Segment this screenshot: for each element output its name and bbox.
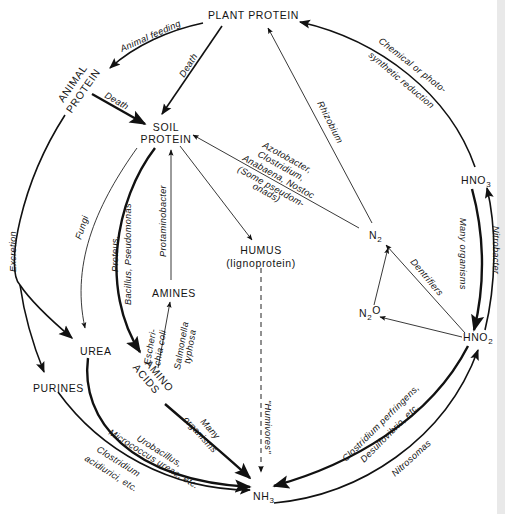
label-clostridium-perfringens-1: Clostridium perfringens, [340, 383, 421, 464]
label-proteus-2: Bacillus, Pseudomonas [123, 203, 133, 305]
arrow-hno3-hno2 [472, 189, 482, 330]
node-soil-protein-line2: PROTEIN [141, 133, 192, 145]
node-amines: AMINES [152, 287, 196, 299]
node-humus-subtitle: (lignoprotein) [226, 257, 296, 269]
node-n2o: N2O [359, 304, 381, 322]
label-protaminobacter: Protaminobacter [158, 184, 168, 257]
label-nitrosomas: Nitrosomas [390, 438, 434, 479]
label-fungi: Fungi [73, 214, 90, 241]
node-humus: HUMUS [240, 244, 282, 256]
node-hno2: HNO2 [463, 331, 493, 346]
node-soil-protein-line1: SOIL [153, 121, 179, 133]
node-n2: N2 [369, 229, 382, 244]
label-excretion: Excretion [8, 231, 18, 272]
label-rhizobium: Rhizobium [315, 99, 345, 145]
nitrogen-cycle-diagram: PLANT PROTEIN ANIMAL PROTEIN SOIL PROTEI… [0, 0, 505, 514]
label-many-organisms-hno: Many organisms [458, 218, 468, 290]
label-nitrobacter: Nitrobacter [491, 226, 501, 275]
label-proteus-1: Proteus, [110, 235, 120, 272]
arrow-n2o-n2 [374, 248, 388, 305]
arrow-hno2-n2o [380, 317, 462, 337]
label-denitrifiers: Dentrifiers [408, 257, 445, 298]
node-urea: UREA [80, 345, 112, 357]
node-purines: PURINES [33, 382, 84, 394]
arrow-plant-death [162, 26, 222, 114]
diagram-svg: PLANT PROTEIN ANIMAL PROTEIN SOIL PROTEI… [0, 0, 505, 514]
node-plant-protein: PLANT PROTEIN [208, 9, 299, 21]
arrow-denitrifiers [386, 245, 465, 333]
label-animal-feeding: Animal feeding [118, 18, 183, 54]
arrow-hno2-nh3 [274, 346, 468, 486]
arrow-excretion-purines [20, 285, 44, 372]
label-humivores: "Humivores" [263, 400, 273, 454]
node-nh3: NH3 [253, 490, 274, 505]
node-hno3: HNO3 [461, 174, 491, 189]
